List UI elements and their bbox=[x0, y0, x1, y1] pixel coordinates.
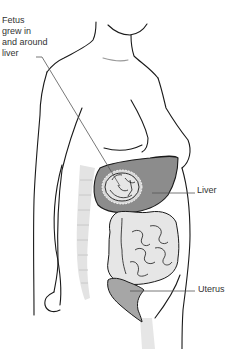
uterus-label: Uterus bbox=[198, 284, 225, 295]
liver-label: Liver bbox=[197, 185, 217, 196]
fetus-outline bbox=[105, 173, 139, 201]
spine bbox=[77, 165, 95, 300]
fetus-label-line-3: and around bbox=[2, 37, 62, 48]
fetus-label-line-2: grew in bbox=[2, 26, 62, 37]
fetus-label: Fetus grew in and around liver bbox=[2, 15, 62, 59]
fetus-label-line-4: liver bbox=[2, 48, 62, 59]
intestines bbox=[108, 211, 179, 284]
fetus-label-line-1: Fetus bbox=[2, 15, 62, 26]
